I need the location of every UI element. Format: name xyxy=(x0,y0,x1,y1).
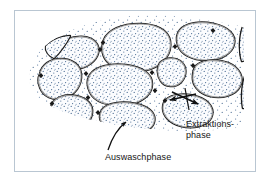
cell-wall-inner xyxy=(193,61,242,97)
extraction-label-line2: phase xyxy=(186,130,234,141)
cell-wall-inner xyxy=(177,23,234,60)
cell-wall xyxy=(240,24,255,61)
washout-label-line1: Auswaschphase xyxy=(105,152,171,163)
washout-label: Auswaschphase xyxy=(105,152,171,163)
figure-container: Extraktions- phase Auswaschphase xyxy=(0,0,270,183)
cell-wall xyxy=(242,70,256,108)
extraction-label: Extraktions- phase xyxy=(186,119,234,140)
cell-wall-inner xyxy=(158,59,186,86)
washout-leader-line xyxy=(108,122,126,150)
cell-wall-inner xyxy=(88,64,152,105)
extraction-label-line1: Extraktions- xyxy=(186,119,234,130)
cell-wall-inner xyxy=(51,95,92,126)
cell-wall-inner xyxy=(100,103,154,134)
